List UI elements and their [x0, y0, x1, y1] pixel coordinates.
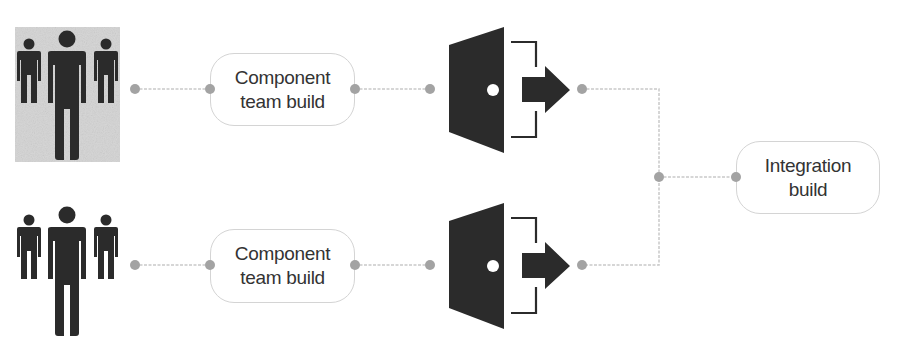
door-exit-icon	[449, 27, 570, 153]
box-label-line2: team build	[235, 90, 331, 114]
box-label-line1: Component	[235, 66, 331, 90]
team-people-icon	[17, 207, 118, 337]
box-label-line1: Integration	[765, 154, 852, 178]
component-team-build-box-2: Component team build	[210, 229, 355, 303]
box-label-line2: team build	[235, 266, 331, 290]
door-exit-icon	[449, 203, 570, 329]
integration-build-box: Integration build	[736, 141, 880, 214]
box-label-line2: build	[765, 178, 852, 202]
component-team-build-box-1: Component team build	[210, 53, 355, 126]
box-label-line1: Component	[235, 242, 331, 266]
